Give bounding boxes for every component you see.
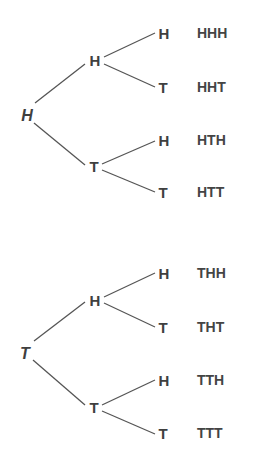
tree2-branch-h-node: H (90, 293, 101, 308)
edge-root-h-to-t (34, 123, 85, 165)
outcome-thh: THH (197, 266, 226, 280)
edge-tt-to-ttt (102, 411, 155, 434)
edge-root-t-to-h (34, 302, 85, 341)
edge-root-t-to-t (33, 360, 85, 405)
tree1-root-node: H (21, 108, 33, 123)
tree2-leaf-th-node: H (159, 373, 170, 388)
outcome-tth: TTH (197, 373, 224, 387)
edge-h-to-ht (104, 64, 155, 87)
tree2-branch-t-node: T (89, 400, 98, 415)
tree2-leaf-ht-node: T (158, 320, 167, 335)
outcome-hhh: HHH (197, 26, 227, 40)
edge-t-to-th (102, 141, 155, 164)
tree1-branch-t-node: T (89, 159, 98, 174)
tree1-leaf-hh-node: H (159, 26, 170, 41)
tree2-leaf-tt-node: T (158, 426, 167, 441)
tree1-leaf-ht-node: T (158, 80, 167, 95)
outcome-ttt: TTT (197, 426, 223, 440)
tree2-leaf-hh-node: H (159, 266, 170, 281)
edge-th-to-tht (104, 303, 155, 327)
edge-th-to-thh (104, 273, 155, 297)
tree-edges (0, 0, 258, 476)
outcome-htt: HTT (197, 185, 224, 199)
tree2-root-node: T (20, 346, 30, 361)
outcome-hht: HHT (197, 80, 226, 94)
edge-h-to-hh (104, 33, 155, 57)
tree1-branch-h-node: H (90, 53, 101, 68)
edge-tt-to-tth (102, 380, 155, 405)
tree1-leaf-th-node: H (159, 133, 170, 148)
edge-root-h-to-h (35, 64, 85, 103)
edge-t-to-tt (102, 170, 155, 192)
tree1-leaf-tt-node: T (158, 185, 167, 200)
outcome-hth: HTH (197, 133, 226, 147)
outcome-tht: THT (197, 320, 224, 334)
